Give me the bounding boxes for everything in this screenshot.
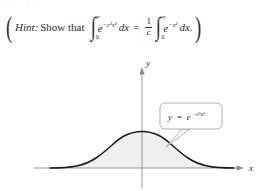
x-axis-label: x <box>248 163 253 173</box>
left-differential: dx <box>119 21 129 33</box>
callout-equals: = <box>177 112 182 122</box>
callout-base: e <box>187 112 191 122</box>
right-integrand: e−x² <box>163 21 177 34</box>
y-axis-label: y <box>145 58 150 68</box>
equals-sign: = <box>133 21 139 33</box>
gaussian-figure: y x y = e −c²x² <box>0 52 261 191</box>
right-integral: ∫ ∞ 0 <box>155 14 162 40</box>
right-integrand-exponent: −x² <box>168 21 177 28</box>
cropped-top-line: · · · · · ·· · <box>0 0 261 4</box>
y-axis-arrowhead <box>139 67 144 75</box>
lower-limit: 0 <box>161 33 164 40</box>
x-axis-arrowhead <box>237 165 245 170</box>
coefficient-fraction: 1 c <box>145 17 152 37</box>
upper-limit: ∞ <box>96 13 101 20</box>
callout-exponent: −c²x² <box>193 111 205 117</box>
left-integral: ∫ ∞ 0 <box>90 14 97 40</box>
hint-expression: ( Hint: Show that ∫ ∞ 0 e−c²x² dx = 1 c … <box>4 9 258 45</box>
hint-instruction: Show that <box>40 21 84 33</box>
upper-limit: ∞ <box>161 13 166 20</box>
fraction-denominator: c <box>147 28 151 37</box>
left-integrand: e−c²x² <box>98 21 117 34</box>
hint-label: Hint: <box>15 21 38 33</box>
fraction-numerator: 1 <box>146 17 151 26</box>
callout-lhs: y <box>167 112 172 122</box>
figure-page: · · · · · ·· · ( Hint: Show that ∫ ∞ 0 e… <box>0 0 261 191</box>
lower-limit: 0 <box>96 33 99 40</box>
callout-tail <box>166 129 190 147</box>
left-integrand-exponent: −c²x² <box>103 21 117 28</box>
right-differential: dx. <box>179 21 192 33</box>
